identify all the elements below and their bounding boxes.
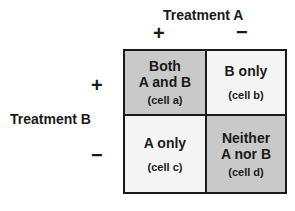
cell-c-sub: (cell c) — [148, 160, 183, 174]
cell-d: Neither A nor B (cell d) — [207, 116, 285, 192]
cell-a: Both A and B (cell a) — [125, 51, 207, 116]
treatment-a-label: Treatment A — [163, 7, 243, 23]
cell-d-sub: (cell d) — [228, 165, 263, 179]
cell-d-line1: Neither — [222, 130, 270, 146]
cell-b-line1: B only — [225, 63, 268, 79]
treatment-a-plus: + — [153, 23, 165, 43]
cell-a-line2: A and B — [139, 74, 191, 90]
treatment-b-minus: − — [91, 145, 103, 165]
treatment-a-minus: − — [236, 22, 248, 42]
cell-c: A only (cell c) — [125, 116, 207, 192]
cell-a-line1: Both — [149, 58, 181, 74]
cell-b-sub: (cell b) — [228, 88, 263, 102]
cell-d-line2: A nor B — [221, 146, 271, 162]
two-by-two-table: Both A and B (cell a) B only (cell b) A … — [123, 49, 287, 194]
treatment-b-label: Treatment B — [10, 111, 91, 127]
treatment-b-plus: + — [91, 75, 103, 95]
cell-b: B only (cell b) — [207, 51, 285, 116]
cell-a-sub: (cell a) — [148, 93, 183, 107]
cell-c-line1: A only — [144, 135, 186, 151]
